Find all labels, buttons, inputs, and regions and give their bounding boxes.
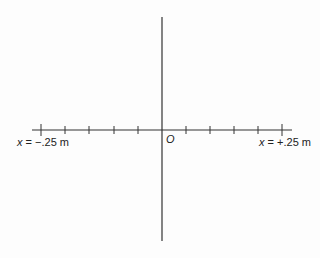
left-endpoint-label: x = −.25 m [17,136,69,148]
origin-label: O [166,133,175,145]
right-endpoint-label: x = +.25 m [259,136,311,148]
axes-graphic [0,0,320,258]
diagram-canvas: x = −.25 m O x = +.25 m [0,0,320,258]
right-label-value: = +.25 m [265,136,311,148]
left-label-value: = −.25 m [23,136,69,148]
